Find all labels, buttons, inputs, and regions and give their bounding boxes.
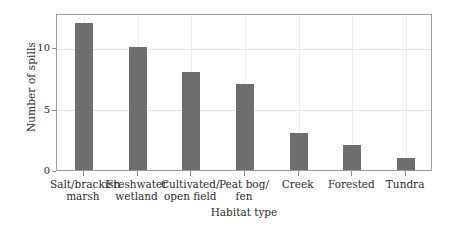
- x-tick-mark: [83, 171, 84, 176]
- bar: [236, 84, 254, 170]
- bar: [397, 158, 415, 170]
- bar: [182, 72, 200, 170]
- bar: [75, 23, 93, 170]
- x-tick-mark: [405, 171, 406, 176]
- bar: [343, 145, 361, 170]
- x-tick-label-line1: Forested: [328, 178, 375, 190]
- y-axis-tick-labels: 0510: [30, 0, 50, 235]
- x-tick-label-line1: Tundra: [386, 178, 425, 190]
- x-axis-title: Habitat type: [56, 206, 432, 219]
- plot-area: [56, 14, 432, 171]
- y-gridline: [57, 49, 431, 50]
- x-tick-mark: [244, 171, 245, 176]
- x-tick-mark: [351, 171, 352, 176]
- bar: [290, 133, 308, 170]
- x-tick-mark: [190, 171, 191, 176]
- y-tick-label: 10: [30, 43, 50, 53]
- x-tick-label-line2: fen: [211, 190, 277, 202]
- bar: [129, 47, 147, 170]
- y-tick-mark: [52, 171, 56, 172]
- y-tick-mark: [52, 110, 56, 111]
- x-tick-mark: [298, 171, 299, 176]
- x-gridline: [406, 15, 407, 170]
- x-tick-label-line1: Peat bog/: [219, 178, 269, 190]
- x-tick-label: Tundra: [372, 178, 438, 190]
- bar-chart-figure: Number of spills 0510 Habitat type Salt/…: [0, 0, 449, 235]
- x-tick-mark: [137, 171, 138, 176]
- y-tick-label: 0: [30, 166, 50, 176]
- y-tick-mark: [52, 48, 56, 49]
- y-tick-label: 5: [30, 105, 50, 115]
- x-tick-label-line1: Creek: [282, 178, 314, 190]
